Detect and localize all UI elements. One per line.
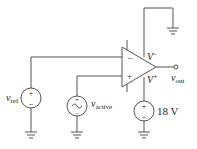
vout-label: vout	[171, 72, 184, 85]
noninverting-input-sign: +	[127, 71, 132, 81]
wire-vactive-to-noninverting	[77, 76, 122, 96]
wire-vminus	[144, 8, 173, 57]
inverting-input-sign: –	[127, 52, 133, 62]
output-terminal	[174, 65, 178, 69]
supply-minus: –	[141, 112, 147, 121]
ground-icon	[167, 28, 179, 34]
circuit-diagram: + – + – + – – + V– V+ vref vactive 18 V …	[0, 0, 197, 149]
vref-plus: +	[29, 89, 34, 98]
ground-icon	[138, 132, 150, 138]
vref-minus: –	[28, 99, 34, 108]
vminus-label: V–	[147, 50, 157, 62]
vactive-plus: +	[75, 96, 79, 104]
ac-sine-icon	[72, 104, 82, 108]
supply-plus: +	[142, 102, 147, 111]
vplus-label: V+	[147, 73, 158, 85]
ground-icon	[25, 132, 37, 138]
vref-label: vref	[6, 92, 19, 105]
supply-label: 18 V	[157, 105, 179, 117]
vactive-minus: –	[74, 109, 79, 117]
vactive-label: vactive	[91, 98, 112, 111]
ground-icon	[71, 132, 83, 138]
